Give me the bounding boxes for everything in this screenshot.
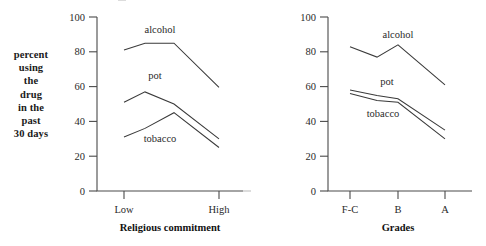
x-category-label-high: High [209,204,231,215]
x-category-label-fc: F-C [342,204,358,215]
series-label-tobacco: tobacco [367,108,400,119]
y-tick-label-100: 100 [69,12,85,23]
chart-panel-religious-commitment: 0 20 40 60 80 100 Low High Religious com… [0,0,243,246]
y-tick-label-60: 60 [75,81,86,92]
series-label-tobacco: tobacco [144,133,177,144]
series-label-pot: pot [148,70,162,81]
x-tick-marks [350,191,445,199]
y-tick-label-0: 0 [311,186,316,197]
x-axis-title: Grades [382,222,415,233]
series-line-alcohol [350,45,445,85]
religious-commitment-plot: 0 20 40 60 80 100 Low High Religious com… [0,0,243,246]
x-category-label-a: A [441,204,449,215]
series-line-pot [124,92,219,139]
y-tick-label-60: 60 [306,81,317,92]
x-category-label-b: B [394,204,401,215]
series-line-alcohol [124,43,219,87]
grades-plot: 0 20 40 60 80 100 F-C B A Grades [243,0,486,246]
series-label-pot: pot [380,76,394,87]
x-category-label-low: Low [114,204,134,215]
y-tick-label-40: 40 [306,116,317,127]
figure-two-line-charts: percent using the drug in the past 30 da… [0,0,486,246]
y-tick-labels: 0 20 40 60 80 100 [69,12,85,197]
y-tick-label-20: 20 [306,151,317,162]
y-tick-label-40: 40 [75,116,86,127]
chart-panel-grades: 0 20 40 60 80 100 F-C B A Grades [243,0,486,246]
y-tick-marks [89,17,97,191]
x-axis-title: Religious commitment [120,222,221,233]
series-label-alcohol: alcohol [383,29,414,40]
y-tick-label-0: 0 [80,186,85,197]
x-tick-marks [124,191,219,199]
y-tick-label-80: 80 [306,46,317,57]
y-tick-label-80: 80 [75,46,86,57]
y-tick-marks [320,17,328,191]
series-label-alcohol: alcohol [145,24,176,35]
y-tick-label-100: 100 [300,12,316,23]
y-tick-label-20: 20 [75,151,86,162]
y-tick-labels: 0 20 40 60 80 100 [300,12,316,197]
